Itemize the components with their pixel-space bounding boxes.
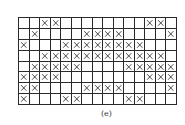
grid-cell-marked [82,51,93,62]
x-mark-icon [62,63,70,71]
x-mark-icon [62,95,70,103]
grid-cell-marked [61,51,72,62]
grid-cell-empty [82,62,93,73]
x-mark-icon [73,52,81,60]
x-mark-icon [52,52,60,60]
grid-cell-empty [166,94,177,105]
grid-cell-marked [61,40,72,51]
x-mark-icon [104,52,112,60]
grid-cell-marked [93,40,104,51]
grid-cell-empty [103,94,114,105]
grid-cell-marked [156,51,167,62]
grid-cell-empty [40,29,51,40]
grid-cell-empty [72,72,83,83]
grid-cell-empty [40,94,51,105]
grid-cell-empty [93,18,104,29]
grid-cell-marked [135,94,146,105]
grid-cell-empty [166,40,177,51]
x-mark-icon [167,63,175,71]
grid-cell-empty [30,40,41,51]
x-mark-icon [104,41,112,49]
grid-cell-marked [61,62,72,73]
x-mark-icon [62,41,70,49]
grid-cell-marked [51,62,62,73]
x-mark-icon [31,30,39,38]
grid-cell-marked [93,51,104,62]
grid-cell-marked [166,29,177,40]
x-mark-icon [73,95,81,103]
grid-cell-empty [93,62,104,73]
grid-cell-empty [93,94,104,105]
grid-cell-empty [72,83,83,94]
grid-cell-marked [166,62,177,73]
x-mark-icon [20,73,28,81]
grid-cell-empty [145,29,156,40]
grid-cell-marked [103,29,114,40]
x-mark-icon [52,73,60,81]
grid-cell-empty [61,83,72,94]
grid-cell-marked [19,83,30,94]
grid-cell-empty [82,94,93,105]
grid-cell-marked [72,40,83,51]
grid-cell-marked [93,83,104,94]
grid-cell-marked [114,40,125,51]
grid-cell-empty [61,18,72,29]
grid-cell-marked [135,51,146,62]
grid-cell-marked [114,83,125,94]
grid-cell-empty [61,29,72,40]
grid-cell-marked [156,62,167,73]
grid-cell-marked [30,62,41,73]
grid-cell-marked [135,40,146,51]
x-mark-icon [104,30,112,38]
grid-cell-marked [93,29,104,40]
x-mark-icon [73,41,81,49]
grid-cell-empty [124,18,135,29]
grid-cell-marked [40,51,51,62]
grid-cell-marked [124,94,135,105]
grid-cell-empty [135,72,146,83]
x-mark-icon [146,19,154,27]
grid-cell-marked [166,72,177,83]
grid-cell-empty [72,18,83,29]
grid-cell-empty [40,83,51,94]
grid-cell-marked [156,18,167,29]
grid-cell-marked [82,40,93,51]
grid-cell-marked [114,51,125,62]
grid-cell-empty [145,94,156,105]
grid-cell-marked [145,62,156,73]
figure-caption: (e) [14,109,185,118]
grid-cell-marked [145,72,156,83]
grid-cell-marked [40,62,51,73]
grid-cell-empty [156,94,167,105]
x-mark-icon [83,30,91,38]
grid-cell-empty [156,29,167,40]
x-mark-icon [20,84,28,92]
grid-cell-marked [124,40,135,51]
x-mark-icon [31,84,39,92]
x-mark-icon [52,19,60,27]
x-mark-icon [20,41,28,49]
grid-cell-empty [61,72,72,83]
grid-cell-marked [124,62,135,73]
grid-cell-empty [135,18,146,29]
grid-cell-marked [145,51,156,62]
grid-cell-empty [124,72,135,83]
x-mark-icon [104,84,112,92]
grid-cell-empty [145,83,156,94]
x-mark-icon [146,73,154,81]
grid-cell-empty [82,18,93,29]
grid-cell-empty [114,72,125,83]
x-mark-icon [157,52,165,60]
grid-cell-marked [40,18,51,29]
x-mark-icon [146,63,154,71]
grid-cell-empty [103,62,114,73]
x-mark-icon [136,52,144,60]
x-mark-icon [136,41,144,49]
grid-cell-empty [156,40,167,51]
grid-cell-empty [30,94,41,105]
x-mark-icon [167,84,175,92]
grid-cell-marked [19,94,30,105]
grid-cell-empty [40,40,51,51]
grid-cell-empty [19,51,30,62]
grid-cell-marked [40,72,51,83]
